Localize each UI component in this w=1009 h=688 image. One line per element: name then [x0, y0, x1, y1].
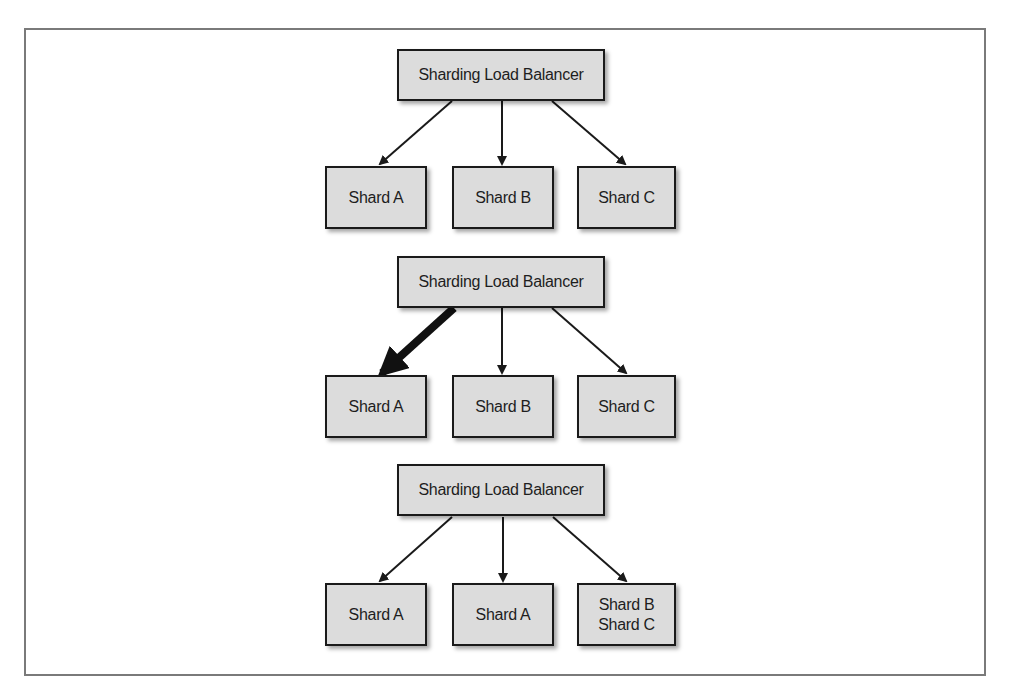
shard-box-a-replica-2: Shard A — [452, 583, 554, 646]
shard-label: Shard C — [598, 397, 655, 417]
shard-label: Shard A — [349, 188, 404, 208]
shard-box-a-hot: Shard A — [325, 375, 427, 438]
load-balancer-box-1: Sharding Load Balancer — [397, 49, 605, 101]
shard-label: Shard A — [476, 605, 531, 625]
shard-label-line-1: Shard B — [599, 595, 655, 615]
shard-box-b-c-combined: Shard B Shard C — [577, 583, 676, 646]
shard-label: Shard A — [349, 605, 404, 625]
shard-label: Shard A — [349, 397, 404, 417]
load-balancer-label: Sharding Load Balancer — [418, 480, 583, 500]
shard-box-c: Shard C — [577, 166, 676, 229]
load-balancer-box-2: Sharding Load Balancer — [397, 256, 605, 308]
shard-label: Shard B — [475, 188, 531, 208]
shard-box-a-replica-1: Shard A — [325, 583, 427, 646]
load-balancer-box-3: Sharding Load Balancer — [397, 464, 605, 516]
load-balancer-label: Sharding Load Balancer — [418, 65, 583, 85]
shard-box-b: Shard B — [452, 375, 554, 438]
shard-label: Shard B — [475, 397, 531, 417]
shard-box-b: Shard B — [452, 166, 554, 229]
shard-label-line-2: Shard C — [598, 615, 655, 635]
shard-box-c: Shard C — [577, 375, 676, 438]
diagram-frame — [24, 28, 986, 676]
load-balancer-label: Sharding Load Balancer — [418, 272, 583, 292]
shard-box-a: Shard A — [325, 166, 427, 229]
shard-label: Shard C — [598, 188, 655, 208]
